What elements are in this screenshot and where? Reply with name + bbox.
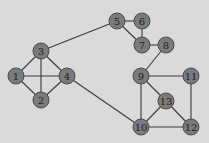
node-7: 7 xyxy=(134,37,150,53)
node-6: 6 xyxy=(134,13,150,29)
node-3: 3 xyxy=(33,43,49,59)
node-4: 4 xyxy=(59,68,75,84)
node-label: 7 xyxy=(139,40,145,51)
node-12: 12 xyxy=(183,119,199,135)
node-label: 11 xyxy=(185,71,198,82)
node-label: 13 xyxy=(160,96,173,107)
node-label: 5 xyxy=(114,16,120,27)
node-5: 5 xyxy=(109,13,125,29)
node-label: 10 xyxy=(135,122,148,133)
node-label: 2 xyxy=(38,95,44,106)
node-label: 4 xyxy=(64,71,70,82)
nodes-layer: 12345678910111213 xyxy=(8,13,199,135)
node-10: 10 xyxy=(133,119,149,135)
node-label: 12 xyxy=(185,122,198,133)
node-8: 8 xyxy=(158,37,174,53)
graph-diagram: 12345678910111213 xyxy=(0,0,209,143)
node-label: 1 xyxy=(13,71,19,82)
node-label: 3 xyxy=(38,46,44,57)
edge-3-5 xyxy=(41,21,117,51)
node-13: 13 xyxy=(158,93,174,109)
node-11: 11 xyxy=(183,68,199,84)
node-label: 8 xyxy=(163,40,169,51)
node-2: 2 xyxy=(33,92,49,108)
node-9: 9 xyxy=(133,68,149,84)
node-label: 9 xyxy=(138,71,144,82)
edge-4-10 xyxy=(67,76,141,127)
node-label: 6 xyxy=(139,16,145,27)
node-1: 1 xyxy=(8,68,24,84)
